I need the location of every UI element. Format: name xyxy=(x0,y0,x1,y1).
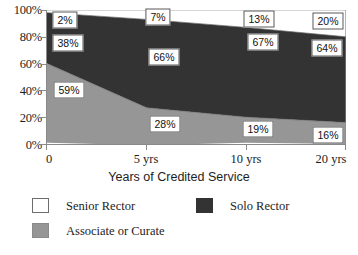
data-label-senior-rector-3: 20% xyxy=(312,13,343,30)
stacked-area-chart: 100% 80% 60% 40% 20% 0% 2% 7% 13% 20% xyxy=(0,0,358,255)
x-tick-mark-1 xyxy=(146,145,147,150)
y-tick-label-0: 0% xyxy=(4,139,42,151)
legend-item-associate-or-curate: Associate or Curate xyxy=(32,223,165,238)
chart-legend: Senior Rector Solo Rector Associate or C… xyxy=(32,198,332,246)
y-tick-label-60: 60% xyxy=(4,58,42,70)
data-label-associate-or-curate-2: 19% xyxy=(242,121,273,138)
y-tick-label-40: 40% xyxy=(4,85,42,97)
x-tick-label-2: 10 yrs xyxy=(231,152,262,166)
x-tick-mark-2 xyxy=(246,145,247,150)
data-label-associate-or-curate-1: 28% xyxy=(149,116,180,133)
y-tick-label-100: 100% xyxy=(4,4,42,16)
x-tick-label-3: 20 yrs xyxy=(316,152,347,166)
y-tick-label-20: 20% xyxy=(4,112,42,124)
legend-swatch-senior-rector xyxy=(32,198,49,213)
x-tick-label-1: 5 yrs xyxy=(134,152,159,166)
legend-label-associate-or-curate: Associate or Curate xyxy=(66,224,165,238)
data-label-senior-rector-1: 7% xyxy=(145,9,170,26)
legend-item-senior-rector: Senior Rector xyxy=(32,198,135,213)
data-label-associate-or-curate-3: 16% xyxy=(312,127,343,144)
legend-swatch-associate-or-curate xyxy=(32,223,49,238)
data-label-solo-rector-1: 66% xyxy=(148,49,179,66)
y-tick-label-80: 80% xyxy=(4,31,42,43)
legend-label-senior-rector: Senior Rector xyxy=(66,199,135,213)
data-label-senior-rector-2: 13% xyxy=(243,11,274,28)
x-axis-title: Years of Credited Service xyxy=(0,170,358,185)
data-label-senior-rector-0: 2% xyxy=(52,12,77,29)
data-label-solo-rector-2: 67% xyxy=(247,34,278,51)
plot-area: 2% 7% 13% 20% 38% 66% 67% 64% 59% 28% 19… xyxy=(46,10,346,144)
legend-label-solo-rector: Solo Rector xyxy=(230,199,289,213)
data-label-solo-rector-3: 64% xyxy=(311,40,342,57)
x-tick-mark-0 xyxy=(46,145,47,150)
data-label-associate-or-curate-0: 59% xyxy=(53,82,84,99)
legend-swatch-solo-rector xyxy=(196,198,213,213)
x-axis-line xyxy=(46,144,346,145)
x-tick-mark-3 xyxy=(345,145,346,150)
area-series-group xyxy=(47,10,346,144)
data-label-solo-rector-0: 38% xyxy=(52,35,83,52)
x-tick-label-0: 0 xyxy=(46,152,52,166)
legend-item-solo-rector: Solo Rector xyxy=(196,198,289,213)
